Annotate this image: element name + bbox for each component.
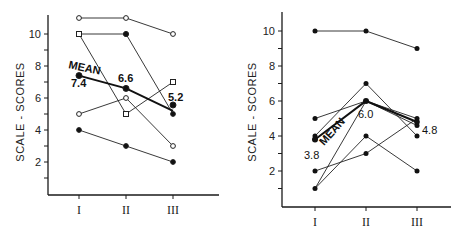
ytick-label-10: 10 [263, 25, 275, 37]
xtick-label-ii: II [362, 215, 370, 229]
filled-circle-marker [77, 128, 82, 133]
open-square-marker [124, 112, 129, 117]
open-circle-marker [77, 16, 82, 21]
filled-circle-marker [171, 112, 176, 117]
series-subject-1 [315, 31, 417, 49]
chart-left: 2 4 6 8 10 SCALE - SCORES I II III [0, 0, 232, 238]
ytick-label-4: 4 [35, 124, 41, 136]
chart-right-plot: 2 4 6 8 10 SCALE - SCORES I II III MEAN … [232, 0, 464, 238]
y-axis-label: SCALE - SCORES [14, 62, 26, 161]
filled-circle-marker [124, 144, 129, 149]
mean-value-i: 3.8 [304, 149, 319, 161]
open-circle-marker [171, 144, 176, 149]
xtick-label-iii: III [167, 203, 179, 217]
ytick-label-8: 8 [35, 60, 41, 72]
ytick-label-4: 4 [269, 130, 275, 142]
filled-circle-marker [123, 31, 128, 36]
open-circle-marker [171, 32, 176, 37]
series-subject-4 [79, 98, 173, 146]
xtick-label-i: I [313, 215, 317, 229]
open-square-marker [171, 80, 176, 85]
mean-label: MEAN [68, 58, 102, 76]
chart-right: 2 4 6 8 10 SCALE - SCORES I II III MEAN … [232, 0, 464, 238]
mean-value-i: 7.4 [71, 77, 87, 89]
ytick-label-6: 6 [269, 95, 275, 107]
y-axis-label: SCALE - SCORES [246, 62, 258, 161]
open-circle-marker [77, 112, 82, 117]
ytick-label-6: 6 [35, 92, 41, 104]
ytick-label-8: 8 [269, 60, 275, 72]
open-circle-marker [124, 96, 129, 101]
ytick-label-10: 10 [29, 28, 41, 40]
mean-label: MEAN [317, 115, 348, 147]
xtick-label-ii: II [122, 203, 130, 217]
mean-value-iii: 4.8 [422, 124, 437, 136]
mean-marker [123, 85, 129, 91]
open-circle-marker [124, 16, 129, 21]
ytick-label-2: 2 [269, 165, 275, 177]
mean-value-ii: 6.0 [358, 108, 373, 120]
chart-left-plot: 2 4 6 8 10 SCALE - SCORES I II III [0, 0, 232, 238]
filled-circle-marker [171, 160, 176, 165]
mean-value-ii: 6.6 [118, 72, 133, 84]
ytick-label-2: 2 [35, 156, 41, 168]
open-square-marker [77, 32, 82, 37]
xtick-label-iii: III [411, 215, 423, 229]
mean-value-iii: 5.2 [168, 91, 183, 103]
xtick-label-i: I [77, 203, 81, 217]
